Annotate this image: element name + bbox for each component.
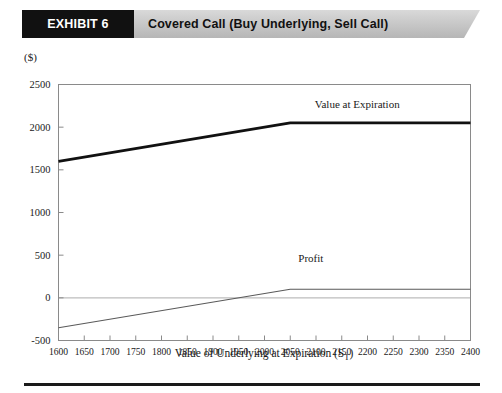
y-axis-unit-label: ($) xyxy=(24,51,37,64)
y-tick-label: -500 xyxy=(31,335,50,346)
x-tick-label: 2400 xyxy=(461,346,480,357)
exhibit-title: Covered Call (Buy Underlying, Sell Call) xyxy=(148,10,388,38)
covered-call-payoff-chart: ($) -50005001000150020002500 16001650170… xyxy=(0,44,502,364)
y-tick-label: 0 xyxy=(45,292,50,303)
exhibit-number-label: EXHIBIT 6 xyxy=(47,17,109,31)
x-axis-title-end: ) xyxy=(349,347,353,360)
chart-figure: ($) -50005001000150020002500 16001650170… xyxy=(0,44,502,364)
y-tick-label: 2500 xyxy=(30,79,51,90)
x-axis-title: Value of Underlying at Expiration (ST) xyxy=(175,347,354,362)
y-tick-label: 1000 xyxy=(30,207,51,218)
value-at-expiration-line xyxy=(59,123,471,161)
x-tick-label: 1750 xyxy=(126,346,145,357)
exhibit-number-tag: EXHIBIT 6 xyxy=(22,10,134,38)
bottom-divider-rule xyxy=(24,383,480,386)
x-tick-label: 1800 xyxy=(152,346,171,357)
profit-line xyxy=(59,289,471,327)
y-tick-label: 500 xyxy=(35,250,51,261)
y-tick-label: 1500 xyxy=(30,164,51,175)
y-tick-label: 2000 xyxy=(30,122,51,133)
x-tick-label: 2300 xyxy=(409,346,428,357)
profit-label: Profit xyxy=(298,252,323,264)
x-tick-label: 1650 xyxy=(75,346,94,357)
value-at-expiration-label: Value at Expiration xyxy=(315,98,400,110)
x-tick-label: 2250 xyxy=(384,346,403,357)
chart-series-layer xyxy=(59,123,471,328)
x-tick-label: 2350 xyxy=(435,346,454,357)
exhibit-header: EXHIBIT 6 Covered Call (Buy Underlying, … xyxy=(22,10,480,38)
x-axis-title-main: Value of Underlying at Expiration (S xyxy=(175,347,345,360)
x-tick-label: 1700 xyxy=(100,346,119,357)
x-tick-label: 1600 xyxy=(49,346,68,357)
x-tick-label: 2200 xyxy=(358,346,377,357)
